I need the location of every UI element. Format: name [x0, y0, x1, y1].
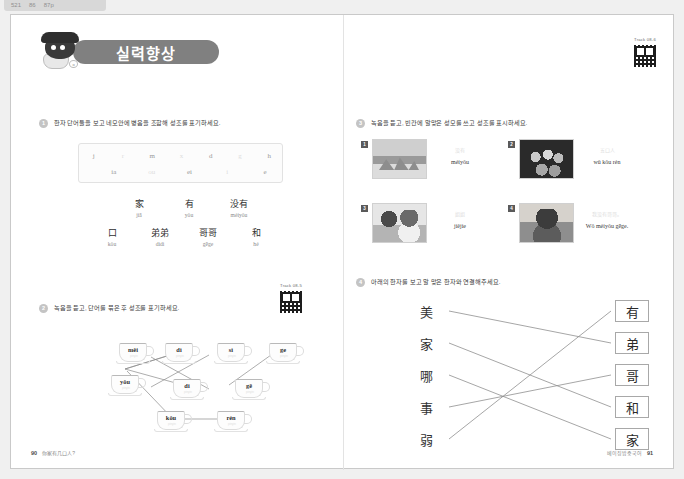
teacup-sub: pinyin — [219, 354, 245, 358]
question-2-text: 녹음을 듣고, 단어를 묶은 후 성조를 표기하세요. — [54, 303, 179, 312]
q3-picture-card[interactable]: 4 我没有哥哥。 Wǒ méiyǒu gēge. — [508, 201, 636, 249]
footer-left: 90 你家有几口人? — [31, 449, 75, 456]
q4-right-item[interactable]: 弟 — [615, 332, 649, 354]
card-pinyin: méiyǒu — [431, 159, 489, 165]
card-hint-hanzi: 没有 — [431, 146, 489, 153]
q4-left-item[interactable]: 家 — [409, 332, 443, 354]
vocab-hanzi: 和 — [243, 227, 269, 239]
vocab-pinyin: méiyǒu — [226, 211, 252, 220]
q1-vocab-row-1: 家 jiā 有 yǒu 没有 méiyǒu — [126, 198, 252, 220]
vocab-item: 哥哥 gēge — [195, 227, 221, 249]
q1-letters-top-row: j r m x d g h — [79, 152, 284, 160]
teacup[interactable]: yǒu pinyin — [111, 371, 145, 396]
card-badge: 1 — [361, 141, 368, 148]
topbar-item-2: 87p — [44, 0, 54, 11]
card-photo — [372, 139, 427, 179]
card-badge: 3 — [361, 205, 368, 212]
teacup-label: rén — [217, 414, 245, 421]
card-pinyin: Wǒ méiyǒu gēge. — [578, 223, 636, 229]
question-1-header: 1 한자 단어들을 보고 네모안에 병음을 조합해 성조를 표기하세요. — [39, 118, 220, 128]
q3-picture-card[interactable]: 1 没有 méiyǒu — [361, 137, 489, 185]
q1-letter: x — [167, 152, 196, 160]
teacup-label: měi — [119, 346, 147, 353]
card-answer-area[interactable]: 姐姐 jiějie — [431, 201, 489, 245]
vocab-item: 和 hé — [243, 227, 269, 249]
card-photo — [519, 203, 574, 243]
vocab-pinyin: dìdi — [147, 240, 173, 249]
workbook-page-sheet: 실력향상 o Track 08-6 1 한자 단어들을 보고 네모안에 병음을 … — [10, 14, 674, 469]
q1-vocab-row-2: 口 kǒu 弟弟 dìdi 哥哥 gēge 和 hé — [99, 227, 269, 249]
qr-image-top[interactable] — [633, 44, 657, 68]
teacup-sub: pinyin — [271, 354, 297, 358]
teacup[interactable]: měi pinyin — [119, 339, 153, 364]
question-2-header: 2 녹음을 듣고, 단어를 묶은 후 성조를 표기하세요. — [39, 303, 179, 313]
q4-right-item[interactable]: 和 — [615, 396, 649, 418]
q1-letter: ou — [133, 168, 171, 176]
q3-picture-card[interactable]: 3 姐姐 jiějie — [361, 201, 489, 249]
teacup[interactable]: rén pinyin — [217, 407, 251, 432]
q1-letter: d — [196, 152, 225, 160]
banner-pill: 실력향상 — [73, 40, 219, 64]
app-topbar: 521 86 87p — [0, 0, 684, 12]
question-1-number: 1 — [39, 119, 48, 128]
q3-picture-card[interactable]: 2 五口人 wǔ kǒu rén — [508, 137, 636, 185]
q1-letter: m — [138, 152, 167, 160]
question-1-text: 한자 단어들을 보고 네모안에 병음을 조합해 성조를 표기하세요. — [54, 118, 220, 127]
q1-letter: ia — [95, 168, 133, 176]
vocab-item: 没有 méiyǒu — [226, 198, 252, 220]
teacup-label: yǒu — [111, 378, 139, 385]
qr-code-track-q2[interactable]: Track 08-5 — [279, 283, 303, 314]
teacup[interactable]: gē pinyin — [235, 375, 269, 400]
vocab-hanzi: 有 — [176, 198, 202, 210]
q1-letter: i — [208, 168, 246, 176]
question-4-number: 4 — [356, 278, 365, 287]
card-badge: 2 — [508, 141, 515, 148]
vocab-pinyin: jiā — [126, 211, 152, 220]
q1-letter: j — [79, 152, 108, 160]
teacup-label: di — [173, 382, 201, 389]
q1-letter: r — [108, 152, 137, 160]
teacup[interactable]: ge pinyin — [269, 339, 303, 364]
question-4-header: 4 아래의 한자를 보고 알 맞은 한자와 연결해주세요. — [356, 277, 500, 287]
banner-title: 실력향상 — [73, 40, 219, 64]
teacup[interactable]: di pinyin — [173, 375, 207, 400]
q1-letter: g — [225, 152, 254, 160]
card-pinyin: jiějie — [431, 223, 489, 229]
card-badge: 4 — [508, 205, 515, 212]
q4-left-item[interactable]: 弱 — [409, 428, 443, 450]
qr-code-track-top[interactable]: Track 08-6 — [633, 37, 657, 68]
q4-right-item[interactable]: 哥 — [615, 364, 649, 386]
q4-left-item[interactable]: 事 — [409, 396, 443, 418]
page-number-left: 90 — [31, 450, 37, 456]
q4-right-item[interactable]: 有 — [615, 300, 649, 322]
page-number-right: 91 — [647, 450, 653, 456]
q4-connection-lines — [409, 297, 649, 447]
vocab-item: 有 yǒu — [176, 198, 202, 220]
topbar-tab-chip[interactable]: 521 86 87p — [4, 0, 106, 11]
mascot-bubble: o — [69, 60, 78, 68]
footer-right: 베이징밥중국어 91 — [607, 449, 653, 456]
vocab-pinyin: gēge — [195, 240, 221, 249]
question-4-text: 아래의 한자를 보고 알 맞은 한자와 연결해주세요. — [371, 277, 500, 286]
card-answer-area[interactable]: 我没有哥哥。 Wǒ méiyǒu gēge. — [578, 201, 636, 245]
q1-letter-box[interactable]: j r m x d g h ia ou ei i e — [78, 143, 283, 183]
teacup-sub: pinyin — [159, 422, 185, 426]
teacup[interactable]: dì pinyin — [165, 339, 199, 364]
q4-right-item[interactable]: 家 — [615, 428, 649, 450]
teacup-label: ge — [269, 346, 297, 353]
q4-left-item[interactable]: 哪 — [409, 364, 443, 386]
qr-image-q2[interactable] — [279, 290, 303, 314]
vocab-pinyin: yǒu — [176, 211, 202, 220]
teacup[interactable]: sì pinyin — [217, 339, 251, 364]
teacup[interactable]: kǒu pinyin — [157, 407, 191, 432]
question-3-header: 3 녹음을 듣고, 빈칸에 알맞은 성모를 쓰고 성조를 표시하세요. — [356, 118, 527, 128]
q1-letters-bottom-row: ia ou ei i e — [79, 168, 284, 176]
vocab-hanzi: 哥哥 — [195, 227, 221, 239]
q4-left-item[interactable]: 美 — [409, 300, 443, 322]
vocab-hanzi: 弟弟 — [147, 227, 173, 239]
card-answer-area[interactable]: 没有 méiyǒu — [431, 137, 489, 181]
teacup-sub: pinyin — [113, 386, 139, 390]
card-answer-area[interactable]: 五口人 wǔ kǒu rén — [578, 137, 636, 181]
vocab-hanzi: 家 — [126, 198, 152, 210]
card-hint-hanzi: 五口人 — [578, 146, 636, 153]
